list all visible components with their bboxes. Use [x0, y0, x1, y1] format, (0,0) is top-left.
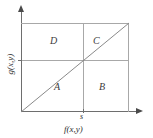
y-axis-label: g(x,y) [5, 42, 15, 86]
quadrant-diagram: D C A B s f(x,y) g(x,y) [0, 0, 153, 138]
quadrant-label-b: B [99, 81, 105, 92]
identity-diagonal-line [21, 23, 129, 112]
quadrant-label-d: D [50, 35, 57, 46]
x-axis-tick-label: s [80, 112, 83, 121]
y-axis-arrow-icon [18, 5, 24, 12]
x-axis-tick-mark [83, 109, 84, 113]
quadrant-label-c: C [93, 35, 100, 46]
y-axis-tick-mark [18, 60, 22, 61]
x-axis-label: f(x,y) [64, 124, 83, 134]
x-axis-arrow-icon [136, 108, 143, 114]
quadrant-label-a: A [54, 81, 60, 92]
